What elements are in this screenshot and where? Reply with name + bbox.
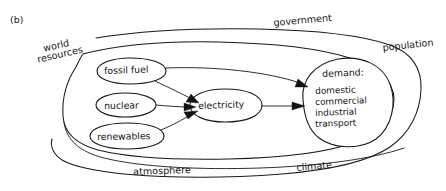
node-nuclear[interactable] xyxy=(96,93,156,117)
edge-fossil-fuel-to-electricity xyxy=(155,81,199,103)
node-fossil-fuel[interactable] xyxy=(97,58,166,84)
system-diagram-svg xyxy=(0,0,446,191)
node-renewables[interactable] xyxy=(90,123,164,149)
edge-fossil-fuel-to-demand xyxy=(166,68,308,87)
node-demand[interactable] xyxy=(303,58,393,147)
node-electricity[interactable] xyxy=(190,89,262,122)
edge-electricity-to-demand xyxy=(262,102,305,110)
edge-renewables-to-electricity xyxy=(161,111,198,130)
diagram-canvas: (b) xyxy=(0,0,446,191)
